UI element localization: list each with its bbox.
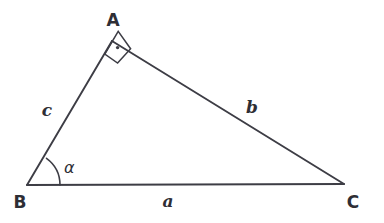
side-label-b: b bbox=[246, 97, 258, 117]
right-angle-dot-icon bbox=[116, 46, 119, 49]
vertex-label-b: B bbox=[14, 192, 27, 212]
angle-alpha-arc-icon bbox=[47, 158, 61, 185]
angle-label-alpha: α bbox=[64, 158, 75, 177]
triangle-figure: A B C a b c α bbox=[0, 0, 384, 223]
side-label-c: c bbox=[42, 100, 53, 120]
geometry-diagram: A B C a b c α bbox=[0, 0, 384, 223]
vertex-label-a: A bbox=[106, 10, 120, 30]
side-label-a: a bbox=[162, 191, 173, 211]
side-a-line bbox=[27, 184, 344, 185]
vertex-label-c: C bbox=[347, 192, 359, 212]
side-b-line bbox=[112, 41, 344, 184]
